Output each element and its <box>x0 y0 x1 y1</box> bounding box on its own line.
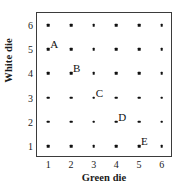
grid-dot <box>47 145 50 148</box>
x-axis-title: Green die <box>36 172 172 183</box>
point-label-d: D <box>118 111 126 123</box>
x-tick-1: 1 <box>46 159 51 170</box>
grid-dot <box>160 96 163 99</box>
point-label-b: B <box>73 62 80 74</box>
y-tick-1: 1 <box>28 140 33 151</box>
grid-dot <box>115 96 118 99</box>
grid-dot <box>160 120 163 123</box>
grid-dot <box>160 24 163 27</box>
grid-dot <box>92 72 95 75</box>
grid-dot <box>138 145 141 148</box>
y-tick-5: 5 <box>28 44 33 55</box>
x-tick-4: 4 <box>114 159 119 170</box>
grid-dot <box>160 72 163 75</box>
grid-dot <box>92 120 95 123</box>
y-tick-3: 3 <box>28 92 33 103</box>
grid-dot <box>138 120 141 123</box>
grid-dot <box>138 24 141 27</box>
grid-dot <box>115 24 118 27</box>
grid-dot <box>138 48 141 51</box>
grid-dot <box>70 24 73 27</box>
grid-dot <box>115 145 118 148</box>
point-label-e: E <box>141 135 148 147</box>
grid-dot <box>160 145 163 148</box>
scatter-plot-figure: White die 654321 123456 ABCDE Green die <box>0 0 181 191</box>
grid-dot <box>92 145 95 148</box>
point-label-c: C <box>96 87 103 99</box>
grid-dot <box>138 96 141 99</box>
point-label-a: A <box>50 38 58 50</box>
grid-dot <box>115 48 118 51</box>
grid-dot <box>47 96 50 99</box>
plot-area: 654321 123456 ABCDE <box>36 12 172 157</box>
y-tick-2: 2 <box>28 116 33 127</box>
y-axis-title: White die <box>3 26 14 96</box>
grid-dot <box>70 96 73 99</box>
grid-dot <box>47 24 50 27</box>
x-tick-5: 5 <box>137 159 142 170</box>
grid-dot <box>70 145 73 148</box>
grid-dot <box>47 72 50 75</box>
x-tick-2: 2 <box>69 159 74 170</box>
grid-dot <box>92 24 95 27</box>
grid-dot <box>115 120 118 123</box>
grid-dot <box>70 120 73 123</box>
grid-dot <box>160 48 163 51</box>
x-tick-3: 3 <box>91 159 96 170</box>
x-tick-6: 6 <box>159 159 164 170</box>
grid-dot <box>47 48 50 51</box>
grid-dot <box>138 72 141 75</box>
y-tick-6: 6 <box>28 20 33 31</box>
grid-dot <box>115 72 118 75</box>
grid-dot <box>92 48 95 51</box>
grid-dot <box>47 120 50 123</box>
y-tick-4: 4 <box>28 68 33 79</box>
grid-dot <box>70 72 73 75</box>
grid-dot <box>70 48 73 51</box>
grid-dot <box>92 96 95 99</box>
